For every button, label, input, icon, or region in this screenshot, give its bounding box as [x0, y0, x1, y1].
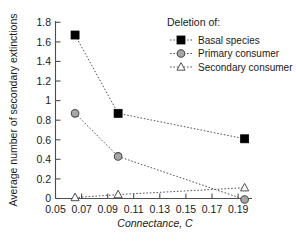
x-tick-label: 0.17 — [202, 203, 223, 215]
x-tick-label: 0.07 — [71, 203, 92, 215]
legend-label: Secondary consumer — [198, 62, 293, 73]
y-tick-marks — [56, 22, 61, 198]
marker-filled-square — [114, 109, 122, 117]
x-tick-labels: 0.05 0.07 0.09 0.11 0.13 0.15 0.17 0.19 — [45, 203, 248, 215]
y-tick-label: 1.6 — [36, 36, 51, 48]
marker-open-triangle — [177, 63, 185, 71]
x-axis-title: Connectance, C — [117, 217, 193, 229]
x-tick-marks — [56, 194, 239, 199]
legend-label: Basal species — [198, 35, 260, 46]
marker-open-triangle — [241, 183, 249, 191]
marker-gray-circle — [177, 50, 185, 58]
x-tick-label: 0.05 — [45, 203, 66, 215]
x-tick-label: 0.13 — [150, 203, 171, 215]
x-tick-label: 0.15 — [176, 203, 197, 215]
legend-title: Deletion of: — [167, 16, 220, 28]
marker-open-triangle — [71, 193, 79, 201]
series-line — [75, 113, 245, 199]
y-tick-label: 1.2 — [36, 75, 51, 87]
figure-container: 0 0.2 0.4 0.6 0.8 1 1.2 1.4 1.6 1.8 0.05… — [0, 0, 296, 246]
legend: Deletion of: Basal speciesPrimary consum… — [167, 16, 293, 73]
legend-entry-secondary-consumer[interactable]: Secondary consumer — [170, 62, 293, 73]
marker-filled-square — [177, 36, 185, 44]
x-tick-label: 0.09 — [97, 203, 118, 215]
extinctions-line-chart: 0 0.2 0.4 0.6 0.8 1 1.2 1.4 1.6 1.8 0.05… — [0, 0, 296, 246]
y-tick-label: 1.4 — [36, 55, 51, 67]
legend-entry-basal-species[interactable]: Basal species — [170, 35, 260, 46]
marker-gray-circle — [114, 153, 122, 161]
y-tick-label: 0.2 — [36, 173, 51, 185]
x-tick-label: 0.11 — [124, 203, 144, 215]
y-tick-label: 1 — [45, 94, 51, 106]
legend-entries: Basal speciesPrimary consumerSecondary c… — [170, 35, 293, 73]
y-tick-label: 0.6 — [36, 134, 51, 146]
marker-gray-circle — [241, 196, 249, 204]
marker-filled-square — [71, 31, 79, 39]
y-tick-label: 0.4 — [36, 153, 51, 165]
x-tick-label: 0.19 — [228, 203, 249, 215]
marker-open-triangle — [114, 190, 122, 198]
y-tick-label: 1.8 — [36, 16, 51, 28]
marker-gray-circle — [71, 110, 79, 118]
marker-filled-square — [241, 135, 249, 143]
y-tick-label: 0.8 — [36, 114, 51, 126]
legend-entry-primary-consumer[interactable]: Primary consumer — [170, 48, 280, 59]
y-tick-labels: 0 0.2 0.4 0.6 0.8 1 1.2 1.4 1.6 1.8 — [36, 16, 51, 204]
y-axis-title: Average number of secondary extinctions — [7, 14, 19, 207]
legend-label: Primary consumer — [198, 48, 280, 59]
